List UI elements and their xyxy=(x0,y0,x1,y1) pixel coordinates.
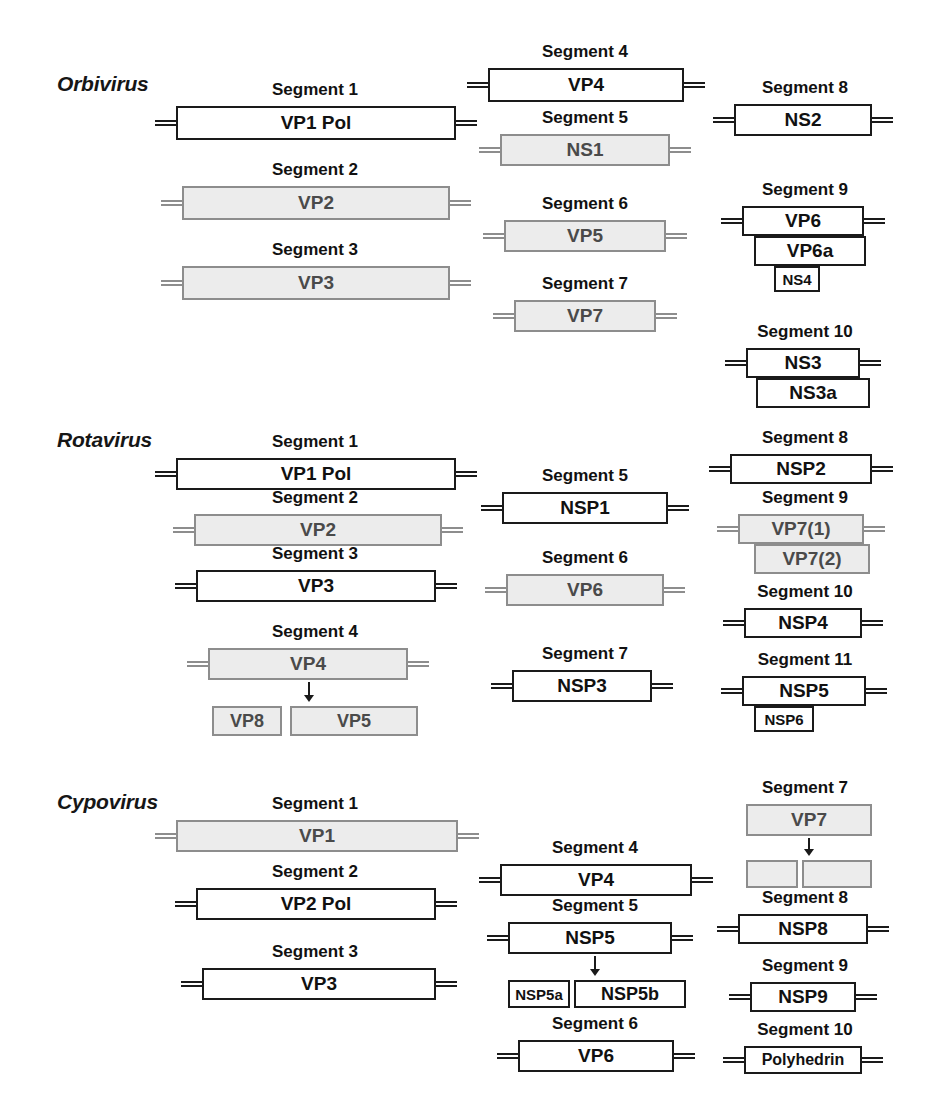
cleavage-product-vp5[interactable]: VP5 xyxy=(290,706,418,736)
orf-box-vp2[interactable]: VP2 xyxy=(182,186,450,220)
cleavage-arrow-icon xyxy=(302,682,316,702)
utr-trailer-line xyxy=(863,218,885,224)
utr-leader-line xyxy=(491,683,513,689)
utr-leader-line xyxy=(161,200,183,206)
orf-box-nsp3[interactable]: NSP3 xyxy=(512,670,652,702)
orf-box-vp2-pol[interactable]: VP2 Pol xyxy=(196,888,436,920)
orf-box-vp4[interactable]: VP4 xyxy=(488,68,684,102)
orf-box-vp7[interactable]: VP7 xyxy=(514,300,656,332)
utr-leader-line xyxy=(487,935,509,941)
utr-leader-line xyxy=(175,583,197,589)
utr-trailer-line xyxy=(665,233,687,239)
orf-box-nsp5[interactable]: NSP5 xyxy=(742,676,866,706)
orf-box-vp1-pol[interactable]: VP1 Pol xyxy=(176,106,456,140)
utr-leader-line xyxy=(721,688,743,694)
segment-title: Segment 9 xyxy=(700,488,910,507)
segment-title: Segment 3 xyxy=(150,240,480,259)
orf-box-nsp5[interactable]: NSP5 xyxy=(508,922,672,954)
utr-trailer-line xyxy=(673,1053,695,1059)
utr-leader-line xyxy=(155,471,177,477)
segment-title: Segment 7 xyxy=(460,274,710,293)
utr-leader-line xyxy=(467,82,489,88)
utr-trailer-line xyxy=(407,661,429,667)
orf-box-vp1[interactable]: VP1 xyxy=(176,820,458,852)
utr-leader-line xyxy=(497,1053,519,1059)
orf-box-ns3a[interactable]: NS3a xyxy=(756,378,870,408)
utr-leader-line xyxy=(483,233,505,239)
segment-title: Segment 6 xyxy=(460,548,710,567)
utr-leader-line xyxy=(155,833,177,839)
utr-trailer-line xyxy=(669,147,691,153)
orf-box-nsp9[interactable]: NSP9 xyxy=(750,982,856,1012)
utr-trailer-line xyxy=(655,313,677,319)
utr-trailer-line xyxy=(671,935,693,941)
utr-leader-line xyxy=(717,526,739,532)
orf-box-vp5[interactable]: VP5 xyxy=(504,220,666,252)
segment-title: Segment 6 xyxy=(460,194,710,213)
genus-label-orbivirus: Orbivirus xyxy=(57,72,149,96)
utr-trailer-line xyxy=(651,683,673,689)
segment-title: Segment 1 xyxy=(150,80,480,99)
orf-box-nsp2[interactable]: NSP2 xyxy=(730,454,872,484)
segment-title: Segment 10 xyxy=(700,322,910,341)
orf-box-nsp4[interactable]: NSP4 xyxy=(744,608,862,638)
cleavage-arrow-icon xyxy=(802,838,816,856)
orf-box-ns2[interactable]: NS2 xyxy=(734,104,872,136)
orf-box-ns3[interactable]: NS3 xyxy=(746,348,860,378)
utr-trailer-line xyxy=(667,505,689,511)
orf-box-vp4[interactable]: VP4 xyxy=(208,648,408,680)
cleavage-product-unlabeled[interactable] xyxy=(802,860,872,888)
utr-trailer-line xyxy=(871,466,893,472)
segment-title: Segment 3 xyxy=(150,942,480,961)
segment-title: Segment 10 xyxy=(700,1020,910,1039)
segment-title: Segment 2 xyxy=(150,160,480,179)
orf-box-vp4[interactable]: VP4 xyxy=(500,864,692,896)
cleavage-product-vp8[interactable]: VP8 xyxy=(212,706,282,736)
utr-trailer-line xyxy=(871,117,893,123)
segment-title: Segment 11 xyxy=(700,650,910,669)
segment-title: Segment 4 xyxy=(470,838,720,857)
cleavage-product-unlabeled[interactable] xyxy=(746,860,798,888)
segment-title: Segment 8 xyxy=(700,428,910,447)
utr-leader-line xyxy=(493,313,515,319)
cleavage-product-nsp5b[interactable]: NSP5b xyxy=(574,980,686,1008)
utr-leader-line xyxy=(479,877,501,883)
orf-box-nsp6[interactable]: NSP6 xyxy=(754,706,814,732)
orf-box-vp7-2-[interactable]: VP7(2) xyxy=(754,544,870,574)
orf-box-vp7-1-[interactable]: VP7(1) xyxy=(738,514,864,544)
orf-box-vp1-pol[interactable]: VP1 Pol xyxy=(176,458,456,490)
segment-title: Segment 6 xyxy=(470,1014,720,1033)
utr-leader-line xyxy=(721,218,743,224)
orf-box-vp6[interactable]: VP6 xyxy=(518,1040,674,1072)
orf-box-nsp1[interactable]: NSP1 xyxy=(502,492,668,524)
orf-box-nsp8[interactable]: NSP8 xyxy=(738,914,868,944)
orf-box-vp6[interactable]: VP6 xyxy=(506,574,664,606)
orf-box-vp3[interactable]: VP3 xyxy=(202,968,436,1000)
segment-title: Segment 1 xyxy=(150,794,480,813)
orf-box-vp3[interactable]: VP3 xyxy=(196,570,436,602)
utr-trailer-line xyxy=(435,981,457,987)
orf-box-vp6[interactable]: VP6 xyxy=(742,206,864,236)
utr-leader-line xyxy=(729,994,751,1000)
orf-box-ns4[interactable]: NS4 xyxy=(774,266,820,292)
orf-box-vp6a[interactable]: VP6a xyxy=(754,236,866,266)
utr-trailer-line xyxy=(861,620,883,626)
segment-title: Segment 7 xyxy=(700,778,910,797)
cleavage-product-nsp5a[interactable]: NSP5a xyxy=(508,980,570,1008)
utr-leader-line xyxy=(485,587,507,593)
segment-title: Segment 5 xyxy=(460,108,710,127)
orf-box-vp7[interactable]: VP7 xyxy=(746,804,872,836)
utr-trailer-line xyxy=(859,360,881,366)
segment-title: Segment 3 xyxy=(150,544,480,563)
orf-box-polyhedrin[interactable]: Polyhedrin xyxy=(744,1046,862,1074)
utr-trailer-line xyxy=(691,877,713,883)
utr-leader-line xyxy=(717,926,739,932)
segment-title: Segment 1 xyxy=(150,432,480,451)
orf-box-ns1[interactable]: NS1 xyxy=(500,134,670,166)
orf-box-vp2[interactable]: VP2 xyxy=(194,514,442,546)
utr-leader-line xyxy=(723,1057,745,1063)
utr-leader-line xyxy=(161,280,183,286)
segment-title: Segment 2 xyxy=(150,862,480,881)
orf-box-vp3[interactable]: VP3 xyxy=(182,266,450,300)
utr-leader-line xyxy=(481,505,503,511)
